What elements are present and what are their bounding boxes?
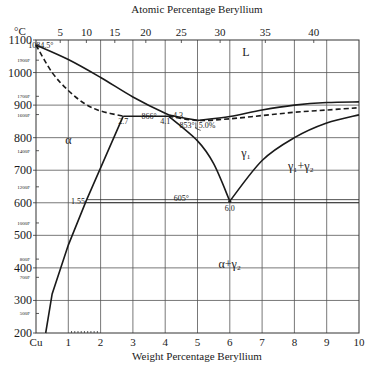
x-tick-label: 1 xyxy=(66,336,72,348)
y-tick-label: 400 xyxy=(14,261,32,275)
fahrenheit-tick-label: 800F xyxy=(20,257,31,262)
x-tick-label: 8 xyxy=(292,336,298,348)
annotation-label: 6.0 xyxy=(225,204,235,213)
annotation-label: 4.1 xyxy=(160,117,170,126)
bottom-axis-title: Weight Percentage Beryllium xyxy=(132,350,262,362)
atomic-tick-label: 25 xyxy=(176,26,188,38)
y-tick-label: 700 xyxy=(14,163,32,177)
region-label: α+γ₂ xyxy=(219,257,242,271)
atomic-tick-label: 40 xyxy=(308,26,320,38)
y-axis-unit: °C xyxy=(14,25,26,37)
phase-diagram-chart: 11001000900800700600500400300200 1900F17… xyxy=(0,0,379,369)
x-tick-label: Cu xyxy=(30,336,43,348)
annotation-label: 605° xyxy=(174,194,189,203)
fahrenheit-tick-label: 1000F xyxy=(17,221,30,226)
region-label: α xyxy=(65,133,72,147)
x-tick-label: 5 xyxy=(195,336,201,348)
annotation-label: 1.55 xyxy=(71,197,85,206)
x-tick-label: 7 xyxy=(259,336,265,348)
annotation-label: 2.7 xyxy=(118,117,128,126)
x-tick-label: 10 xyxy=(354,336,366,348)
fahrenheit-tick-label: 1700F xyxy=(17,94,30,99)
fahrenheit-tick-label: 700F xyxy=(20,275,31,280)
x-tick-label: 2 xyxy=(98,336,104,348)
y-tick-label: 1000 xyxy=(8,66,32,80)
x-axis-weight: Cu12345678910 xyxy=(30,331,365,348)
x-tick-label: 4 xyxy=(162,336,168,348)
region-label: γ₁ xyxy=(240,146,251,160)
y-tick-label: 900 xyxy=(14,98,32,112)
y-tick-label: 300 xyxy=(14,293,32,307)
y-tick-label: 800 xyxy=(14,131,32,145)
atomic-tick-label: 15 xyxy=(109,26,121,38)
top-axis-title: Atomic Percentage Beryllium xyxy=(131,3,263,15)
annotation-label: 866° xyxy=(141,112,156,121)
y-tick-label: 500 xyxy=(14,228,32,242)
atomic-tick-label: 10 xyxy=(81,26,93,38)
annotation-label: 853°, 5.0% xyxy=(180,121,216,130)
region-label: γ₁+γ₂ xyxy=(287,159,314,173)
fahrenheit-tick-label: 1900F xyxy=(17,58,30,63)
atomic-tick-label: 30 xyxy=(215,26,227,38)
fahrenheit-tick-label: 1600F xyxy=(17,113,30,118)
x-tick-label: 3 xyxy=(130,336,136,348)
atomic-tick-label: 35 xyxy=(260,26,272,38)
atomic-tick-label: 20 xyxy=(140,26,152,38)
grid-lines xyxy=(36,40,359,333)
liquidus-gamma xyxy=(198,102,360,121)
annotation-label: 1084.5° xyxy=(28,41,53,50)
x-tick-label: 9 xyxy=(324,336,330,348)
region-label: L xyxy=(242,45,249,59)
fahrenheit-tick-label: 1200F xyxy=(17,185,30,190)
fahrenheit-tick-label: 1400F xyxy=(17,149,30,154)
y-tick-label: 600 xyxy=(14,196,32,210)
fahrenheit-tick-label: 500F xyxy=(20,311,31,316)
atomic-tick-label: 5 xyxy=(57,26,63,38)
annotation-label: 4.3 xyxy=(173,111,183,120)
x-tick-label: 6 xyxy=(227,336,233,348)
annotations: 1084.5°866°4.32.74.1853°, 5.0%1.55605°6.… xyxy=(28,41,235,213)
